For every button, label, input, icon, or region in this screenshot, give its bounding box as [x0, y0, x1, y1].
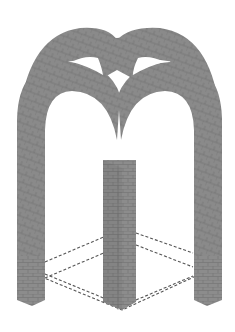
vault-drawing [0, 0, 235, 332]
center-column [103, 160, 136, 310]
groin-vault-illustration [0, 0, 235, 332]
